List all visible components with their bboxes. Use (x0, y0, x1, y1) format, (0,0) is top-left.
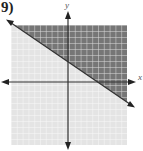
boundary-arrow-right-icon (127, 101, 135, 108)
y-axis-arrow-down-icon (65, 142, 71, 150)
x-axis-arrow-right-icon (128, 79, 136, 85)
x-axis-arrow-left-icon (1, 79, 9, 85)
y-axis-label: y (64, 0, 69, 10)
y-axis-arrow-up-icon (65, 11, 71, 19)
x-axis-label: x (137, 72, 142, 82)
inequality-graph: y x (0, 0, 143, 151)
